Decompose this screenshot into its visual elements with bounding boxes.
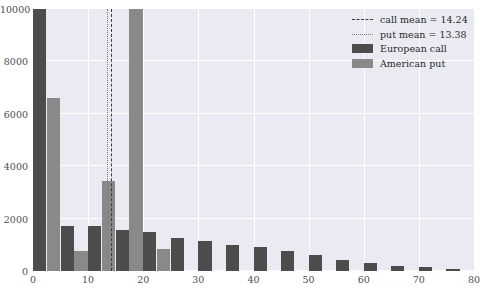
bar-european-call [61,226,74,271]
gridline-vertical [309,9,310,271]
bar-european-call [198,241,211,271]
bar-european-call [254,247,267,271]
chart-figure: 0200040006000800010000 01020304050607080… [0,0,482,301]
bar-european-call [281,251,294,271]
gridline-vertical [198,9,199,271]
bar-european-call [226,245,239,271]
x-tick-label: 10 [82,274,94,285]
bar-european-call [116,230,129,271]
bar-european-call [419,267,432,271]
x-tick-label: 0 [30,274,36,285]
bar-european-call [309,255,322,271]
y-tick-label: 6000 [0,108,28,119]
y-tick-label: 2000 [0,213,28,224]
bar-european-call [364,263,377,271]
color-swatch-icon [352,59,373,68]
bar-european-call [88,226,101,271]
dashed-line-icon [352,15,373,24]
x-tick-label: 60 [358,274,370,285]
bar-european-call [171,238,184,271]
legend-label: call mean = 14.24 [380,14,468,25]
legend-item-put-mean: put mean = 13.38 [352,29,468,40]
bar-american-put [74,251,87,271]
legend-label: American put [380,58,445,69]
dotted-line-icon [352,30,373,39]
mean-line-call-mean [111,9,112,271]
color-swatch-icon [352,44,373,53]
x-tick-label: 50 [303,274,315,285]
y-tick-label: 10000 [0,4,28,15]
legend-item-american-put: American put [352,58,468,69]
mean-line-put-mean [107,9,108,271]
bar-american-put [157,249,170,271]
y-tick-label: 4000 [0,161,28,172]
y-tick-label: 8000 [0,56,28,67]
legend-item-call-mean: call mean = 14.24 [352,14,468,25]
chart-legend: call mean = 14.24 put mean = 13.38 Europ… [352,14,468,69]
bar-american-put [129,9,142,271]
bar-american-put [47,98,60,271]
x-tick-label: 30 [192,274,204,285]
x-tick-label: 80 [468,274,480,285]
bar-european-call [143,232,156,271]
legend-label: put mean = 13.38 [380,29,467,40]
gridline-vertical [254,9,255,271]
bar-european-call [391,266,404,271]
x-tick-label: 40 [247,274,259,285]
x-tick-label: 20 [137,274,149,285]
y-tick-label: 0 [0,266,28,277]
bar-european-call [33,9,46,271]
bar-american-put [102,181,115,271]
bar-european-call [336,260,349,271]
bar-european-call [446,269,459,271]
x-tick-label: 70 [413,274,425,285]
legend-label: European call [380,43,447,54]
legend-item-european-call: European call [352,43,468,54]
